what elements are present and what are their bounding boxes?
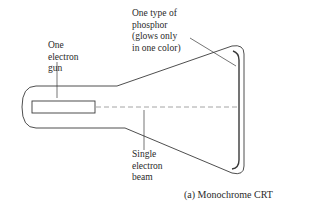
electron-gun	[32, 101, 95, 113]
phosphor-label: One type of phosphor (glows only in one …	[132, 8, 181, 54]
phosphor-leader-line	[190, 38, 236, 66]
beam-label: Single electron beam	[132, 149, 163, 184]
phosphor-screen	[232, 51, 239, 169]
figure-caption: (a) Monochrome CRT	[184, 189, 273, 200]
gun-label: One electron gun	[48, 40, 79, 75]
